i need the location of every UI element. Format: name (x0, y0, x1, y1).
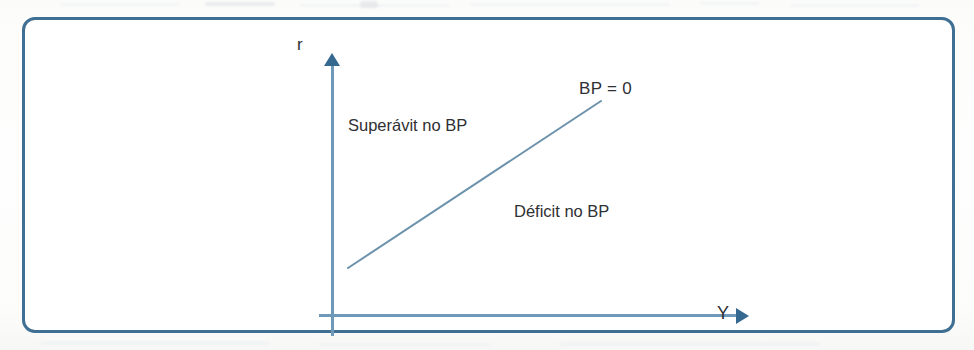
vertical-axis-line (331, 64, 334, 336)
scan-artifact (470, 3, 670, 6)
scan-artifact (700, 2, 760, 5)
bp-curve-label: BP = 0 (579, 80, 632, 97)
scan-artifact (560, 342, 820, 346)
scan-artifact (40, 341, 270, 345)
region-label-deficit: Déficit no BP (514, 203, 609, 220)
scan-artifact (60, 3, 180, 6)
horizontal-axis-arrow-icon (736, 308, 749, 324)
scan-artifact (320, 343, 490, 346)
scan-artifact (790, 4, 920, 7)
bp-curve (25, 20, 958, 336)
scan-artifact (360, 1, 378, 8)
vertical-axis-arrow-icon (324, 53, 340, 66)
scan-artifact (205, 2, 275, 6)
horizontal-axis-label: Y (717, 304, 729, 322)
figure-frame: r Y BP = 0 Superávit no BP Déficit no BP (22, 17, 955, 333)
vertical-axis-label: r (297, 36, 303, 53)
horizontal-axis-line (319, 314, 739, 317)
region-label-surplus: Superávit no BP (348, 117, 467, 134)
